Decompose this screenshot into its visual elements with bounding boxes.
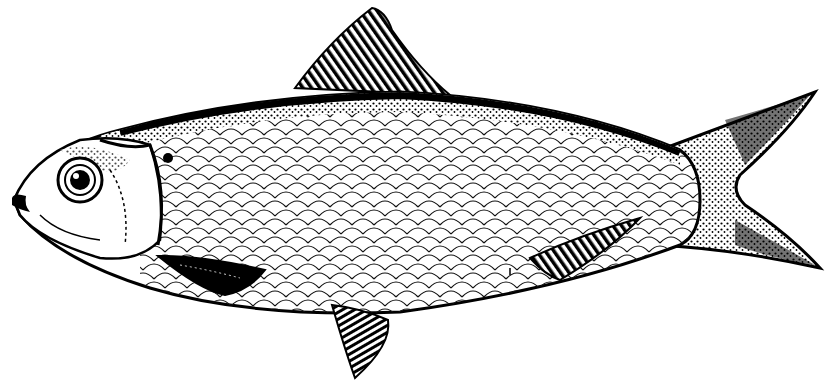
round-eye [58,158,102,202]
fish-illustration: Fish illustration (herring / shad) [0,0,827,383]
pelvic-fin [332,305,388,378]
dorsal-fin [295,8,450,95]
fish-drawing [0,0,827,383]
shoulder-spot [163,153,173,163]
